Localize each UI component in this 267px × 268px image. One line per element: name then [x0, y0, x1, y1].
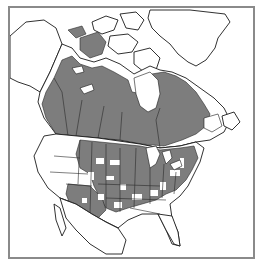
range-map [10, 8, 253, 257]
greenland [148, 10, 230, 66]
arctic-island [108, 34, 138, 54]
range-victoria-island [80, 32, 106, 58]
map-frame [8, 6, 255, 259]
arctic-island [120, 12, 144, 30]
arctic-island [92, 16, 118, 34]
range-arctic-island [68, 26, 86, 38]
florida [158, 214, 180, 246]
